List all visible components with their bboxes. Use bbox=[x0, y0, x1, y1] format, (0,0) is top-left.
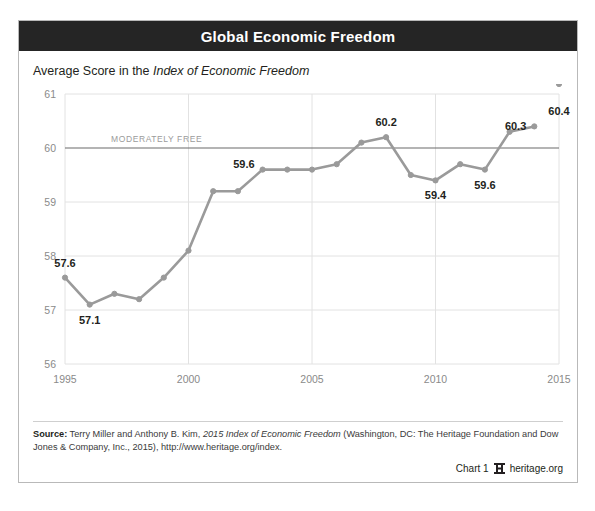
data-point-marker bbox=[161, 275, 166, 280]
data-point-label: 59.6 bbox=[233, 158, 254, 170]
data-point-marker bbox=[137, 297, 142, 302]
y-tick-label: 61 bbox=[44, 88, 56, 100]
data-point-label: 59.6 bbox=[474, 179, 495, 191]
data-point-marker bbox=[87, 302, 92, 307]
x-tick-label: 2005 bbox=[300, 373, 324, 385]
data-point-marker bbox=[408, 172, 413, 177]
y-tick-label: 60 bbox=[44, 142, 56, 154]
source-text-part1: Terry Miller and Anthony B. Kim, bbox=[67, 429, 203, 439]
page-title: Global Economic Freedom bbox=[201, 28, 396, 45]
chart-number: Chart 1 bbox=[456, 463, 489, 474]
x-tick-label: 2015 bbox=[547, 373, 571, 385]
x-tick-label: 2000 bbox=[177, 373, 201, 385]
data-point-marker bbox=[556, 84, 561, 87]
y-axis-tick-labels: 565758596061 bbox=[44, 88, 56, 370]
chart-footer: Source: Terry Miller and Anthony B. Kim,… bbox=[33, 421, 563, 474]
data-point-marker bbox=[334, 162, 339, 167]
heritage-foundation-logo-icon bbox=[494, 463, 505, 474]
footer-divider bbox=[33, 421, 563, 422]
chart-card: Global Economic Freedom Average Score in… bbox=[18, 20, 578, 483]
data-point-marker bbox=[482, 167, 487, 172]
data-point-marker bbox=[285, 167, 290, 172]
data-point-marker bbox=[235, 189, 240, 194]
source-note: Source: Terry Miller and Anthony B. Kim,… bbox=[33, 428, 563, 453]
data-point-label: 60.4 bbox=[548, 105, 570, 117]
data-point-marker bbox=[211, 189, 216, 194]
data-point-marker bbox=[62, 275, 67, 280]
data-point-marker bbox=[359, 140, 364, 145]
data-point-label: 60.2 bbox=[375, 116, 396, 128]
data-point-marker bbox=[112, 291, 117, 296]
source-label: Source: bbox=[33, 429, 67, 439]
data-point-label: 60.3 bbox=[505, 120, 526, 132]
threshold-label-text: MODERATELY FREE bbox=[111, 134, 202, 144]
y-tick-label: 56 bbox=[44, 358, 56, 370]
data-point-marker bbox=[433, 178, 438, 183]
data-point-marker bbox=[260, 167, 265, 172]
chart-subtitle-prefix: Average Score in the bbox=[33, 64, 153, 78]
chart-attribution: Chart 1 heritage.org bbox=[33, 463, 563, 474]
data-point-marker bbox=[384, 135, 389, 140]
chart-subtitle: Average Score in the Index of Economic F… bbox=[33, 64, 577, 78]
data-point-marker bbox=[532, 124, 537, 129]
data-point-marker bbox=[186, 248, 191, 253]
chart-plot-area: 565758596061 19952000200520102015 57.657… bbox=[19, 84, 577, 402]
x-tick-label: 1995 bbox=[53, 373, 77, 385]
data-point-label: 59.4 bbox=[425, 189, 447, 201]
data-point-marker bbox=[458, 162, 463, 167]
y-tick-label: 59 bbox=[44, 196, 56, 208]
source-text-italic: 2015 Index of Economic Freedom bbox=[203, 429, 341, 439]
chart-title-bar: Global Economic Freedom bbox=[19, 21, 577, 51]
data-point-marker bbox=[309, 167, 314, 172]
data-series-line bbox=[65, 126, 534, 304]
y-tick-label: 57 bbox=[44, 304, 56, 316]
heritage-org-text: heritage.org bbox=[510, 463, 563, 474]
chart-subtitle-italic: Index of Economic Freedom bbox=[153, 64, 309, 78]
line-chart-svg: 565758596061 19952000200520102015 57.657… bbox=[19, 84, 577, 402]
x-axis-tick-labels: 19952000200520102015 bbox=[53, 373, 571, 385]
threshold-annotation-label: MODERATELY FREE bbox=[111, 134, 202, 144]
x-tick-label: 2010 bbox=[424, 373, 448, 385]
data-point-label: 57.6 bbox=[54, 257, 75, 269]
data-point-label: 57.1 bbox=[79, 314, 100, 326]
